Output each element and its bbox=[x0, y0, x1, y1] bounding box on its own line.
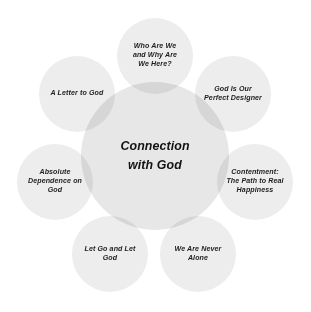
diagram-canvas: Who Are We and Why Are We Here?God Is Ou… bbox=[0, 0, 311, 312]
center-circle[interactable] bbox=[81, 82, 229, 230]
radial-diagram-svg bbox=[0, 0, 311, 312]
